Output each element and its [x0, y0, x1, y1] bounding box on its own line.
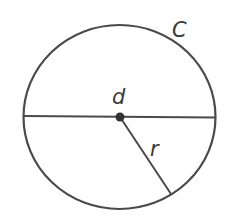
circle-diagram: C d r	[0, 0, 229, 218]
radius-label: r	[150, 137, 160, 161]
diameter-label: d	[112, 85, 126, 109]
radius-line	[120, 117, 171, 194]
circumference-label: C	[172, 18, 187, 42]
center-point	[116, 113, 125, 122]
